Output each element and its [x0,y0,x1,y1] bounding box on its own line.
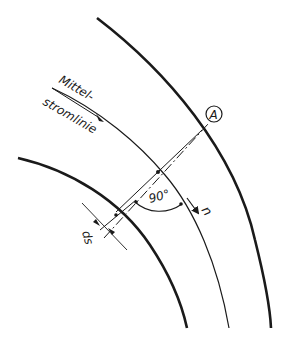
inner-wall [18,158,187,328]
streamline-label-line1: Mittel- [57,72,97,103]
diagram-svg: A 90° n ds Mittel- stromlinie [0,0,287,346]
normal-line-offset-lower [100,200,136,230]
angle-label: 90° [147,187,171,206]
outer-wall [97,18,271,328]
ds-arrow-upper-icon [93,219,100,226]
angle-end-dot-right [179,202,183,206]
streamline-diagram: A 90° n ds Mittel- stromlinie [0,0,287,346]
streamline-intersection-dot [156,170,160,174]
inner-wall-intersection-dot [114,213,118,217]
normal-arrow [187,198,198,213]
ds-label: ds [79,229,96,246]
angle-end-dot-left [134,200,138,204]
point-A-label: A [209,108,218,122]
normal-label: n [199,203,216,218]
normal-line [104,124,208,238]
